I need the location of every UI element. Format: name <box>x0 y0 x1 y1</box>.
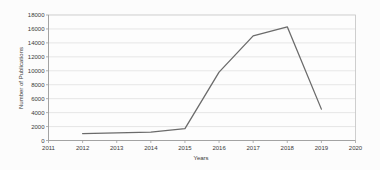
x-tick-label: 2018 <box>281 145 295 151</box>
x-tick-label: 2015 <box>178 145 192 151</box>
plot-area <box>49 15 356 141</box>
y-tick-label: 10000 <box>28 68 45 74</box>
x-tick-label: 2020 <box>349 145 363 151</box>
y-tick-label: 18000 <box>28 12 45 18</box>
line-chart-canvas: 0200040006000800010000120001400016000180… <box>0 0 380 170</box>
x-tick-label: 2012 <box>76 145 90 151</box>
y-tick-label: 6000 <box>31 96 45 102</box>
x-tick-label: 2011 <box>42 145 56 151</box>
y-tick-label: 8000 <box>31 82 45 88</box>
x-tick-label: 2017 <box>246 145 260 151</box>
x-tick-label: 2019 <box>315 145 329 151</box>
publications-trend-figure: 0200040006000800010000120001400016000180… <box>0 0 380 170</box>
y-tick-label: 12000 <box>28 54 45 60</box>
y-tick-label: 14000 <box>28 40 45 46</box>
x-tick-label: 2014 <box>144 145 158 151</box>
y-tick-label: 4000 <box>31 110 45 116</box>
y-tick-label: 16000 <box>28 26 45 32</box>
x-tick-label: 2013 <box>110 145 124 151</box>
y-tick-label: 2000 <box>31 124 45 130</box>
y-tick-label: 0 <box>41 138 45 144</box>
x-tick-label: 2016 <box>212 145 226 151</box>
